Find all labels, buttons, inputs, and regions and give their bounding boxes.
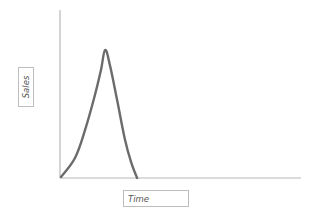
chart-canvas <box>0 0 316 218</box>
sales-curve <box>61 50 137 178</box>
x-axis-label-text: Time <box>128 194 149 204</box>
y-axis-label: Sales <box>18 67 34 107</box>
y-axis-label-text: Sales <box>21 76 31 99</box>
x-axis-label: Time <box>123 190 189 207</box>
